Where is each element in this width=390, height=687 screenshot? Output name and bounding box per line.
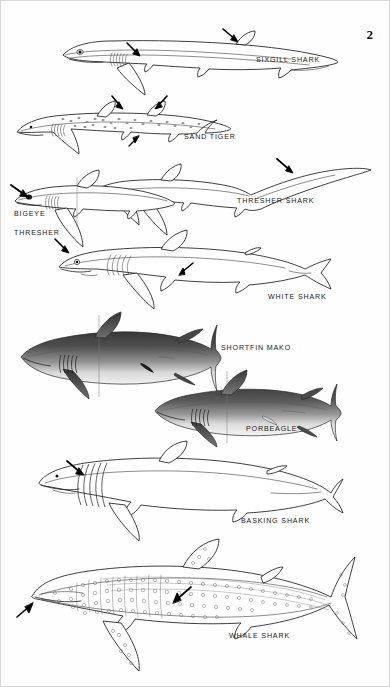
basking-shark-illustration bbox=[31, 441, 351, 541]
whale-shark-illustration bbox=[15, 539, 375, 675]
caption-shortfin-mako: SHORTFIN MAKO bbox=[221, 344, 291, 352]
page-number: 2 bbox=[367, 27, 374, 43]
caption-porbeagle: PORBEAGLE bbox=[246, 425, 297, 433]
arrow-annotation bbox=[223, 29, 238, 42]
arrow-annotation bbox=[55, 239, 69, 253]
caption-whale-shark: WHALE SHARK bbox=[229, 632, 290, 640]
caption-white-shark: WHITE SHARK bbox=[268, 293, 327, 301]
sand-tiger-illustration bbox=[9, 96, 249, 168]
arrow-annotation bbox=[277, 159, 293, 173]
caption-basking-shark: BASKING SHARK bbox=[241, 517, 310, 525]
arrow-annotation bbox=[11, 185, 28, 197]
caption-bigeye-line2: THRESHER bbox=[14, 229, 60, 237]
porbeagle-illustration bbox=[149, 369, 349, 447]
caption-thresher-shark: THRESHER SHARK bbox=[237, 197, 314, 205]
caption-bigeye-line1: BIGEYE bbox=[14, 210, 46, 218]
arrow-annotation bbox=[129, 136, 139, 146]
arrow-annotation bbox=[17, 603, 33, 617]
shark-identification-plate: 2 bbox=[0, 0, 390, 687]
caption-sand-tiger: SAND TIGER bbox=[184, 133, 236, 141]
caption-sixgill-shark: SIXGILL SHARK bbox=[256, 56, 320, 64]
